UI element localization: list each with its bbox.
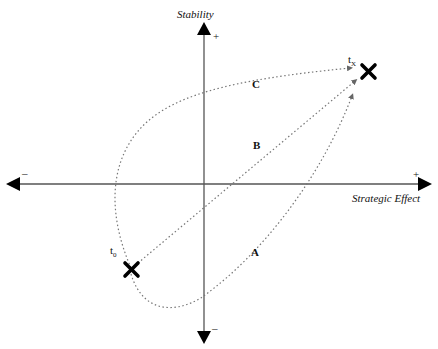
y-axis-positive-sign: + xyxy=(213,30,219,42)
x-axis-right-arrow-icon xyxy=(418,177,432,191)
x-axis-title: Strategic Effect xyxy=(352,192,420,204)
x-axis xyxy=(6,177,432,191)
y-axis-up-arrow-icon xyxy=(197,22,211,35)
end-time-label: tX xyxy=(348,53,356,68)
diagram-canvas xyxy=(0,0,438,349)
end-x-mark-icon xyxy=(362,65,375,78)
x-axis-negative-sign: – xyxy=(22,167,28,179)
y-axis-down-arrow-icon xyxy=(197,331,211,344)
y-axis-title: Stability xyxy=(177,8,214,20)
path-a-label: A xyxy=(251,246,259,258)
x-axis-positive-sign: + xyxy=(413,168,419,180)
start-time-label: t0 xyxy=(110,244,117,259)
path-c xyxy=(115,68,350,268)
path-c-label: C xyxy=(252,78,260,90)
path-b-label: B xyxy=(253,139,260,151)
path-b xyxy=(138,81,355,263)
path-a xyxy=(131,96,352,308)
y-axis-negative-sign: – xyxy=(212,322,218,334)
x-axis-left-arrow-icon xyxy=(6,177,20,191)
